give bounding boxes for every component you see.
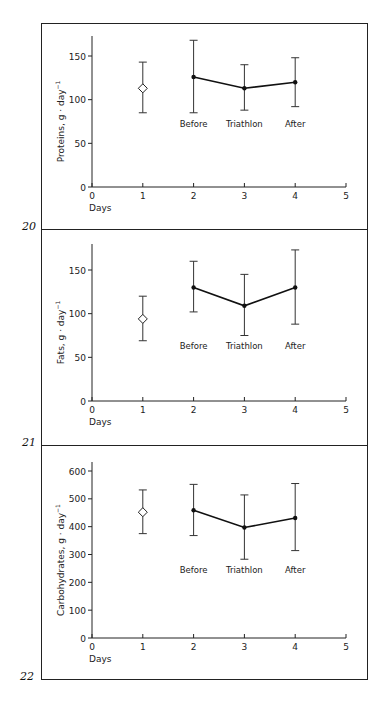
point-label: After — [285, 119, 306, 129]
data-point — [293, 516, 297, 520]
x-tick-label: 5 — [343, 405, 349, 415]
y-tick-label: 0 — [80, 397, 86, 407]
point-label: Before — [180, 565, 208, 575]
data-point — [242, 525, 246, 529]
diamond-marker — [138, 508, 147, 517]
x-tick-label: 3 — [242, 191, 248, 201]
x-tick-label: 4 — [292, 642, 298, 652]
chart-fats: 050100150012345DaysFats, g · day−1Before… — [54, 244, 349, 427]
x-axis-label: Days — [89, 654, 112, 664]
x-tick-label: 2 — [191, 642, 197, 652]
point-label: Triathlon — [225, 341, 263, 351]
y-axis-label: Fats, g · day−1 — [54, 301, 66, 365]
data-point — [242, 304, 246, 308]
y-tick-label: 0 — [80, 634, 86, 644]
x-tick-label: 5 — [343, 191, 349, 201]
data-point — [191, 75, 195, 79]
y-tick-label: 600 — [69, 467, 86, 477]
chart-carbohydrates: 0100200300400500600012345DaysCarbohydrat… — [54, 462, 349, 664]
x-tick-label: 4 — [292, 405, 298, 415]
x-tick-label: 1 — [140, 191, 146, 201]
data-point — [242, 86, 246, 90]
x-tick-label: 0 — [89, 191, 95, 201]
y-tick-label: 500 — [69, 494, 86, 504]
point-label: Triathlon — [225, 119, 263, 129]
y-axis-label: Carbohydrates, g · day−1 — [54, 504, 66, 616]
point-label: After — [285, 565, 306, 575]
point-label: Before — [180, 119, 208, 129]
diamond-marker — [138, 314, 147, 323]
x-axis-label: Days — [89, 417, 112, 427]
point-label: Triathlon — [225, 565, 263, 575]
x-tick-label: 1 — [140, 642, 146, 652]
x-tick-label: 2 — [191, 405, 197, 415]
x-tick-label: 3 — [242, 405, 248, 415]
data-point — [293, 285, 297, 289]
x-tick-label: 5 — [343, 642, 349, 652]
y-tick-label: 50 — [75, 353, 87, 363]
x-tick-label: 4 — [292, 191, 298, 201]
point-label: Before — [180, 341, 208, 351]
y-tick-label: 100 — [69, 606, 86, 616]
y-tick-label: 0 — [80, 183, 86, 193]
data-point — [191, 508, 195, 512]
chart-proteins: 050100150012345DaysProteins, g · day−1Be… — [54, 36, 349, 213]
figure-number-22: 22 — [19, 670, 34, 683]
y-axis-label: Proteins, g · day−1 — [54, 80, 66, 162]
y-tick-label: 50 — [75, 139, 87, 149]
figure-number-20: 20 — [21, 220, 36, 233]
x-tick-label: 0 — [89, 642, 95, 652]
nutrition-figure: 050100150012345DaysProteins, g · day−1Be… — [0, 0, 384, 705]
data-point — [191, 285, 195, 289]
diamond-marker — [138, 84, 147, 93]
x-tick-label: 0 — [89, 405, 95, 415]
data-point — [293, 80, 297, 84]
y-tick-label: 200 — [69, 578, 86, 588]
x-tick-label: 2 — [191, 191, 197, 201]
x-tick-label: 3 — [242, 642, 248, 652]
y-tick-label: 300 — [69, 550, 86, 560]
y-tick-label: 100 — [69, 309, 86, 319]
figure-number-21: 21 — [21, 436, 36, 449]
y-tick-label: 400 — [69, 522, 86, 532]
y-tick-label: 150 — [69, 266, 86, 276]
y-tick-label: 150 — [69, 52, 86, 62]
x-axis-label: Days — [89, 203, 112, 213]
x-tick-label: 1 — [140, 405, 146, 415]
y-tick-label: 100 — [69, 95, 86, 105]
point-label: After — [285, 341, 306, 351]
